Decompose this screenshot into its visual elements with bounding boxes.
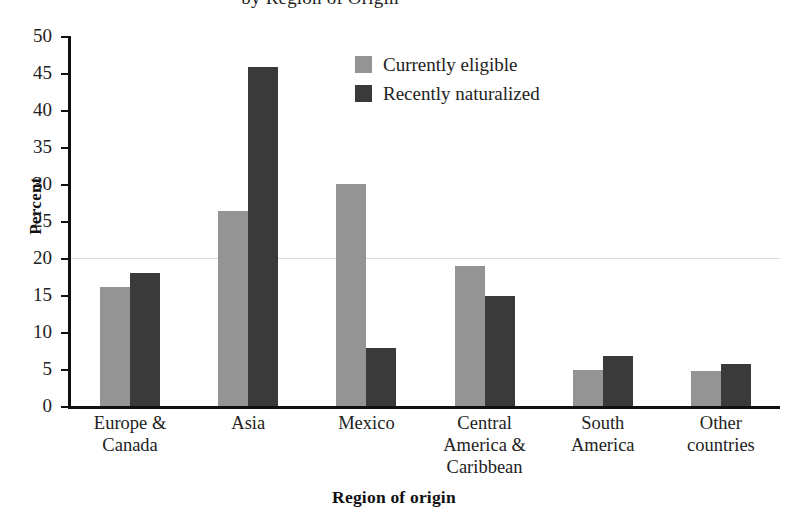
legend-item: Currently eligible [355, 50, 540, 79]
bar-currently-eligible [573, 370, 603, 406]
y-tick: 40 [61, 110, 69, 112]
chart-title: by Region of Origin [70, 0, 570, 9]
y-tick: 25 [61, 221, 69, 223]
y-tick-label: 45 [33, 63, 52, 82]
category-label: SouthAmerica [544, 412, 662, 456]
legend-label: Recently naturalized [383, 84, 540, 103]
category-label-line: Central [426, 412, 544, 434]
bar-recently-naturalized [721, 364, 751, 406]
category-label: CentralAmerica &Caribbean [426, 412, 544, 478]
legend-item: Recently naturalized [355, 79, 540, 108]
y-tick: 30 [61, 184, 69, 186]
x-axis-category-labels: Europe &CanadaAsiaMexicoCentralAmerica &… [71, 412, 780, 482]
x-axis-title: Region of origin [0, 487, 788, 508]
category-label-line: Caribbean [426, 456, 544, 478]
y-tick: 15 [61, 295, 69, 297]
category-label: Asia [189, 412, 307, 434]
x-axis-line [68, 406, 780, 409]
y-tick: 5 [61, 369, 69, 371]
bar-currently-eligible [455, 266, 485, 406]
y-tick-label: 15 [33, 285, 52, 304]
y-tick-label: 25 [33, 211, 52, 230]
category-label-line: Canada [71, 434, 189, 456]
bar-recently-naturalized [603, 356, 633, 406]
bar-group [691, 36, 751, 406]
legend-swatch-icon [355, 56, 372, 73]
y-tick-label: 5 [43, 359, 53, 378]
y-tick: 10 [61, 332, 69, 334]
category-label: Europe &Canada [71, 412, 189, 456]
y-tick: 20 [61, 258, 69, 260]
bar-group [573, 36, 633, 406]
bar-chart-figure: by Region of Origin Percent 051015202530… [0, 0, 788, 517]
y-tick-label: 0 [43, 396, 53, 415]
legend-swatch-icon [355, 85, 372, 102]
category-label-line: America & [426, 434, 544, 456]
category-label: Othercountries [662, 412, 780, 456]
category-label-line: South [544, 412, 662, 434]
bar-recently-naturalized [248, 67, 278, 406]
bar-currently-eligible [336, 184, 366, 406]
y-tick: 50 [61, 36, 69, 38]
bar-recently-naturalized [130, 273, 160, 406]
bar-recently-naturalized [366, 348, 396, 406]
y-tick-label: 40 [33, 100, 52, 119]
y-tick: 45 [61, 73, 69, 75]
bar-currently-eligible [100, 287, 130, 406]
category-label: Mexico [307, 412, 425, 434]
bar-group [218, 36, 278, 406]
bar-currently-eligible [691, 371, 721, 406]
category-label-line: Asia [189, 412, 307, 434]
y-tick: 35 [61, 147, 69, 149]
bar-recently-naturalized [485, 296, 515, 406]
category-label-line: America [544, 434, 662, 456]
chart-legend: Currently eligibleRecently naturalized [355, 50, 540, 108]
y-tick: 0 [61, 406, 69, 408]
category-label-line: Mexico [307, 412, 425, 434]
y-tick-label: 35 [33, 137, 52, 156]
category-label-line: Other [662, 412, 780, 434]
y-tick-label: 10 [33, 322, 52, 341]
category-label-line: Europe & [71, 412, 189, 434]
y-tick-label: 20 [33, 248, 52, 267]
bar-group [100, 36, 160, 406]
category-label-line: countries [662, 434, 780, 456]
bar-currently-eligible [218, 211, 248, 406]
y-tick-label: 30 [33, 174, 52, 193]
y-tick-label: 50 [33, 26, 52, 45]
legend-label: Currently eligible [383, 55, 518, 74]
